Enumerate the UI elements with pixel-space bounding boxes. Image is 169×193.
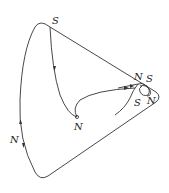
arrow-down-icon [53, 66, 56, 71]
label-left-node: N [9, 134, 20, 145]
curve-inner-node-to-right [75, 88, 135, 117]
label-right-node-lower: N [146, 95, 157, 106]
label-top-saddle: S [52, 15, 59, 26]
label-right-saddle-lower: S [134, 97, 141, 108]
separatrix-to-inner-node [50, 27, 77, 117]
phase-portrait-diagram: S N N N S S N [0, 0, 169, 193]
label-right-node-upper: N [133, 71, 144, 82]
label-right-saddle-upper: S [146, 73, 153, 84]
label-inner-node: N [73, 121, 84, 132]
arrow-up-icon [19, 119, 22, 124]
